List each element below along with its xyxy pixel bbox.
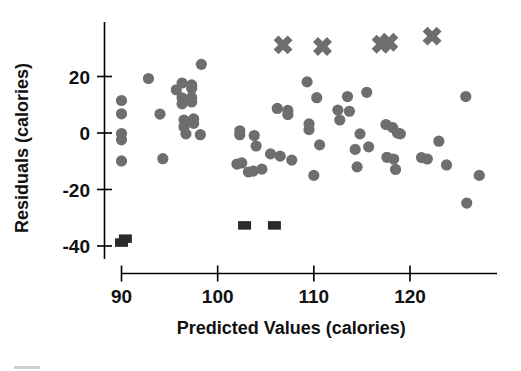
data-point-circle — [116, 155, 127, 166]
data-point-circle — [474, 170, 485, 181]
data-point-circle — [188, 118, 199, 129]
data-point-cross — [425, 29, 439, 43]
x-tick-label-110: 110 — [299, 286, 330, 307]
data-point-circle — [116, 95, 127, 106]
data-point-circle — [176, 98, 187, 109]
y-tick-label-20: 20 — [69, 67, 90, 88]
data-point-circle — [308, 170, 319, 181]
x-tick-label-90: 90 — [111, 286, 132, 307]
x-axis-title: Predicted Values (calories) — [177, 318, 406, 338]
data-point-circle — [332, 105, 343, 116]
axis-labels-group: 200-20-4090100110120Predicted Values (ca… — [12, 63, 426, 338]
plot-canvas: 200-20-4090100110120Predicted Values (ca… — [0, 0, 521, 371]
data-point-circle — [265, 148, 276, 159]
data-point-circle — [234, 125, 245, 136]
data-point-circle — [180, 128, 191, 139]
ticks-group — [97, 77, 410, 282]
data-point-circle — [433, 136, 444, 147]
data-point-circle — [388, 153, 399, 164]
data-point-square — [119, 234, 132, 243]
data-point-circle — [249, 130, 260, 141]
residual-scatter-chart: 200-20-4090100110120Predicted Values (ca… — [0, 0, 521, 371]
data-point-circle — [176, 77, 187, 88]
axes-group — [105, 22, 498, 274]
data-point-circle — [196, 59, 207, 70]
data-point-cross — [315, 40, 329, 54]
data-point-square — [268, 221, 281, 230]
data-point-circle — [195, 129, 206, 140]
data-point-circle — [344, 106, 355, 117]
y-tick-label--40: -40 — [63, 236, 90, 257]
data-point-circle — [302, 76, 313, 87]
data-point-circle — [256, 164, 267, 175]
data-point-cross — [382, 35, 396, 49]
data-point-circle — [275, 151, 286, 162]
data-point-circle — [460, 91, 471, 102]
data-point-circle — [390, 164, 401, 175]
data-point-circle — [236, 157, 247, 168]
data-point-circle — [116, 108, 127, 119]
data-point-circle — [342, 91, 353, 102]
page-artifact-mark — [14, 366, 40, 369]
data-point-circle — [350, 144, 361, 155]
data-point-square — [238, 221, 251, 230]
y-tick-label-0: 0 — [79, 123, 90, 144]
data-point-circle — [272, 103, 283, 114]
y-tick-label--20: -20 — [63, 180, 90, 201]
data-point-circle — [395, 128, 406, 139]
data-point-circle — [116, 134, 127, 145]
data-point-circle — [354, 128, 365, 139]
y-axis-title: Residuals (calories) — [12, 63, 32, 233]
data-point-circle — [441, 159, 452, 170]
data-point-circle — [422, 153, 433, 164]
data-point-circle — [154, 108, 165, 119]
data-point-circle — [143, 73, 154, 84]
data-point-circle — [251, 140, 262, 151]
data-point-circle — [286, 155, 297, 166]
data-point-circle — [461, 197, 472, 208]
data-point-circle — [311, 92, 322, 103]
data-point-circle — [157, 153, 168, 164]
data-point-circle — [334, 114, 345, 125]
data-point-circle — [314, 139, 325, 150]
data-point-circle — [352, 161, 363, 172]
data-point-circle — [303, 118, 314, 129]
data-points-group — [115, 29, 485, 247]
data-point-circle — [363, 141, 374, 152]
data-point-circle — [282, 105, 293, 116]
data-point-circle — [361, 87, 372, 98]
data-point-circle — [186, 96, 197, 107]
x-tick-label-100: 100 — [202, 286, 234, 307]
data-point-cross — [276, 38, 290, 52]
x-tick-label-120: 120 — [394, 286, 426, 307]
